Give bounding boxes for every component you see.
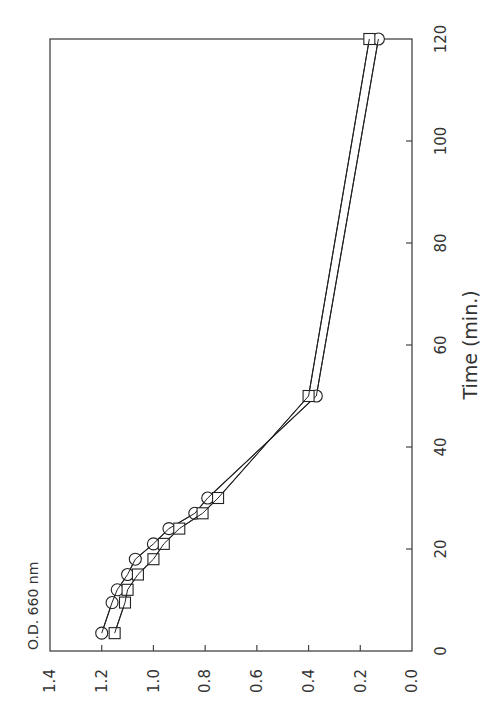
time-tick-label: 100 <box>432 127 450 156</box>
od-tick-label: 1.4 <box>41 669 59 693</box>
series-segment <box>309 39 370 396</box>
time-axis-title: Time (min.) <box>459 290 481 400</box>
series-circles <box>96 33 385 639</box>
od-tick-label: 0.2 <box>352 669 370 693</box>
od-tick-label: 1.0 <box>145 669 163 693</box>
chart: 020406080100120 0.00.20.40.60.81.01.21.4… <box>0 0 484 714</box>
time-tick-label: 120 <box>432 25 450 54</box>
time-tick-label: 40 <box>432 437 450 456</box>
time-tick-label: 60 <box>432 335 450 354</box>
od-tick-label: 1.2 <box>93 669 111 693</box>
od-axis-ticks: 0.00.20.40.60.81.01.21.4 <box>41 645 421 693</box>
plot-frame <box>50 39 412 651</box>
time-tick-label: 0 <box>432 646 450 656</box>
od-tick-label: 0.6 <box>248 669 266 693</box>
series-line-circles <box>102 39 379 633</box>
od-tick-label: 0.8 <box>196 669 214 693</box>
time-tick-label: 20 <box>432 539 450 558</box>
od-tick-label: 0.4 <box>300 669 318 693</box>
series-segment <box>218 396 309 498</box>
series-layer <box>96 33 385 639</box>
series-segment <box>316 39 378 396</box>
time-tick-label: 80 <box>432 233 450 252</box>
series-segment <box>208 396 317 498</box>
od-axis-title: O.D. 660 nm <box>25 562 41 650</box>
od-tick-label: 0.0 <box>403 669 421 693</box>
